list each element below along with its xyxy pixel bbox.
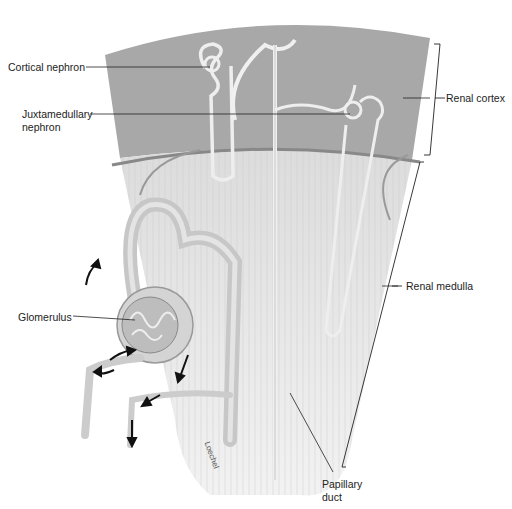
label-cortical-nephron: Cortical nephron: [8, 61, 85, 73]
label-papillary-duct-1: Papillary: [322, 478, 362, 490]
label-juxtamedullary-nephron-1: Juxtamedullary: [22, 108, 93, 120]
label-renal-medulla: Renal medulla: [406, 280, 473, 292]
label-papillary-duct-2: duct: [322, 491, 342, 503]
kidney-diagram: Cortical nephron Juxtamedullary nephron …: [0, 0, 512, 509]
kidney-illustration: [0, 0, 512, 509]
label-renal-cortex: Renal cortex: [446, 92, 505, 104]
label-glomerulus: Glomerulus: [18, 311, 72, 323]
label-juxtamedullary-nephron-2: nephron: [22, 121, 61, 133]
